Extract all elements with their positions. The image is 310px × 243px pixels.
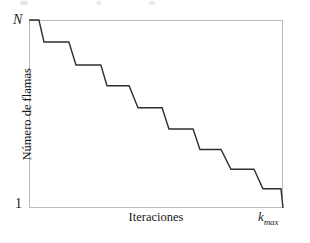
figure-staircase-plot: N 1 kmax Número de flamas Iteraciones [0, 0, 310, 243]
staircase-line [29, 20, 283, 208]
x-axis-title: Iteraciones [29, 211, 283, 224]
scan-artifact-marks [0, 0, 310, 9]
y-axis-tick-bottom: 1 [15, 197, 22, 211]
y-axis-tick-top: N [13, 13, 22, 27]
staircase-series-svg [29, 20, 283, 208]
y-axis-title: Número de flamas [21, 34, 34, 194]
